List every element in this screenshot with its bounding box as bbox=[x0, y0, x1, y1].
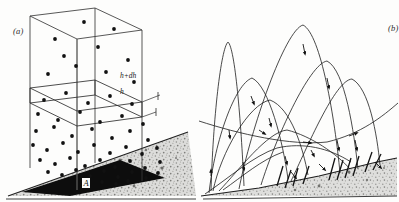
grain-dot bbox=[130, 102, 134, 106]
grain-dot bbox=[98, 158, 102, 162]
grain-dot bbox=[144, 176, 148, 180]
grain-dot bbox=[156, 171, 160, 175]
grain-dot bbox=[128, 129, 132, 133]
grain-dot bbox=[78, 110, 82, 114]
grain-dot bbox=[34, 129, 38, 133]
panel-a: (a) h+dh h A bbox=[0, 0, 199, 202]
grain-dot bbox=[120, 114, 124, 118]
grain-dot bbox=[110, 136, 114, 140]
grain-dot bbox=[116, 175, 120, 179]
grain-dot bbox=[52, 125, 56, 129]
grain-dot bbox=[158, 160, 162, 164]
grain-dot bbox=[68, 156, 72, 160]
grain-dot bbox=[113, 165, 117, 169]
grain-dot bbox=[140, 152, 144, 156]
height-lower-label: h bbox=[120, 87, 124, 96]
grain-dot bbox=[104, 70, 108, 74]
height-upper-label: h+dh bbox=[120, 71, 136, 80]
grain-dot bbox=[36, 112, 40, 116]
panel-b: (b) bbox=[199, 0, 399, 202]
grain-dot bbox=[130, 170, 134, 174]
grain-dot bbox=[45, 148, 49, 152]
grain-dot bbox=[82, 20, 86, 24]
grain-dot bbox=[86, 101, 90, 105]
grain-dot bbox=[74, 168, 78, 172]
height-tick-marks bbox=[156, 92, 158, 116]
grain-dot bbox=[141, 122, 145, 126]
grain-dot bbox=[46, 170, 50, 174]
grain-dot bbox=[126, 179, 130, 183]
grain-dot bbox=[74, 64, 78, 68]
grain-dot bbox=[31, 143, 35, 147]
panel-a-drawing bbox=[0, 0, 199, 202]
grain-dot bbox=[102, 169, 106, 173]
grain-dot bbox=[132, 80, 136, 84]
panel-b-label: (b) bbox=[388, 23, 399, 33]
grain-dot bbox=[112, 27, 116, 31]
panel-b-baseline bbox=[203, 196, 397, 199]
grain-dot bbox=[96, 45, 100, 49]
grain-dot bbox=[155, 146, 159, 150]
grain-dot bbox=[62, 54, 66, 58]
grain-dot bbox=[46, 72, 50, 76]
grain-dot bbox=[92, 143, 96, 147]
panel-b-drawing bbox=[199, 0, 399, 202]
grain-dot bbox=[124, 145, 128, 149]
grain-dot bbox=[76, 150, 80, 154]
grain-dot bbox=[100, 180, 104, 184]
grain-dot bbox=[108, 151, 112, 155]
grain-dot bbox=[70, 134, 74, 138]
grain-dot bbox=[126, 58, 130, 62]
grain-dot bbox=[146, 138, 150, 142]
figure-container: (a) h+dh h A bbox=[0, 0, 399, 202]
grain-dot bbox=[53, 37, 57, 41]
grain-dot bbox=[60, 173, 64, 177]
grain-dot bbox=[42, 98, 46, 102]
grain-dot bbox=[61, 141, 65, 145]
grain-dot bbox=[98, 120, 102, 124]
grain-dot bbox=[83, 164, 87, 168]
direction-arrowheads bbox=[211, 44, 381, 178]
panel-a-label: (a) bbox=[13, 26, 24, 36]
grain-dot bbox=[64, 91, 68, 95]
grain-dot bbox=[90, 127, 94, 131]
grain-dot bbox=[114, 182, 118, 186]
grain-dot bbox=[128, 159, 132, 163]
grain-dot bbox=[38, 158, 42, 162]
base-area-label: A bbox=[82, 178, 90, 188]
grain-dot bbox=[56, 118, 60, 122]
grain-dot bbox=[143, 166, 147, 170]
grain-dot bbox=[53, 162, 57, 166]
grain-dot bbox=[108, 94, 112, 98]
